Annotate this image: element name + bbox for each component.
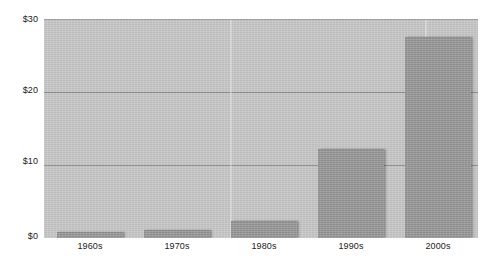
x-tick-label-1980s: 1980s [251, 241, 276, 251]
bar-1990s [318, 149, 384, 238]
plot-top-border [44, 19, 478, 20]
y-tick-label-10: $10 [0, 156, 38, 166]
bar-1980s [231, 221, 297, 238]
y-tick-label-30: $30 [0, 14, 38, 24]
bar-1960s [57, 232, 123, 238]
plot-area [44, 19, 478, 238]
y-tick-label-20: $20 [0, 85, 38, 95]
x-tick-label-2000s: 2000s [425, 241, 450, 251]
bar-2000s [405, 37, 471, 238]
bar-1970s [144, 230, 210, 238]
scan-seam-1 [230, 19, 232, 238]
bar-chart-figure: $30 $20 $10 $0 1960s 1970s 1980s 1990s 2… [0, 0, 494, 275]
x-tick-label-1970s: 1970s [164, 241, 189, 251]
x-tick-label-1990s: 1990s [338, 241, 363, 251]
x-tick-label-1960s: 1960s [77, 241, 102, 251]
y-tick-label-0: $0 [0, 231, 38, 241]
x-axis: 1960s 1970s 1980s 1990s 2000s [44, 241, 478, 259]
